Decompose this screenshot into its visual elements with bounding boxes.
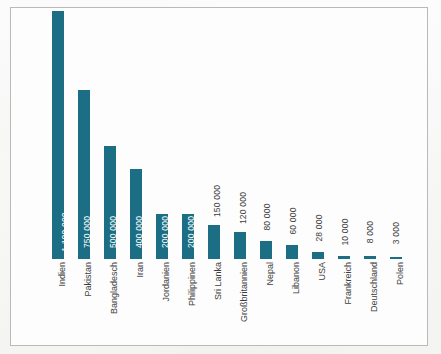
chart-screenshot: 1 100 000Indien750 000Pakistan500 000Ban… [0,0,441,354]
bar-group[interactable]: 28 000USA [305,0,331,354]
bar-category-label: Libanon [279,262,305,342]
bar-rect[interactable] [390,257,402,259]
bar-group[interactable]: 3 000Polen [383,0,409,354]
bar-rect[interactable] [208,225,220,259]
bar-category-label: Polen [383,262,409,342]
bar-value-label: 3 000 [383,210,409,256]
bar-rect[interactable] [234,232,246,259]
bar-group[interactable]: 150 000Sri Lanka [201,0,227,354]
bar-group[interactable]: 1 100 000Indien [45,0,71,354]
bar-group[interactable]: 750 000Pakistan [71,0,97,354]
bar-group[interactable]: 8 000Deutschland [357,0,383,354]
bar-category-label: Bangladesch [97,262,123,342]
bar-group[interactable]: 60 000Libanon [279,0,305,354]
bar-group[interactable]: 500 000Bangladesch [97,0,123,354]
bar-rect[interactable] [260,241,272,259]
bar-category-label: Philippinen [175,262,201,342]
bar-rect[interactable] [338,256,350,259]
bar-rect[interactable] [364,256,376,259]
bar-chart-plot-area: 1 100 000Indien750 000Pakistan500 000Ban… [0,0,441,354]
bar-group[interactable]: 10 000Frankreich [331,0,357,354]
bar-category-label: Indien [45,262,71,342]
bar-group[interactable]: 200 000Philippinen [175,0,201,354]
bar-group[interactable]: 120 000Großbritannien [227,0,253,354]
bar-rect[interactable] [312,252,324,259]
bar-category-label: Deutschland [357,262,383,342]
bar-category-label: Frankreich [331,262,357,342]
bar-group[interactable]: 200 000Jordanien [149,0,175,354]
bar-category-label: Pakistan [71,262,97,342]
bar-category-label: USA [305,262,331,342]
bar-category-label: Großbritannien [227,262,253,342]
bar-category-label: Jordanien [149,262,175,342]
bar-group[interactable]: 400 000Iran [123,0,149,354]
bar-rect[interactable] [286,245,298,259]
bar-group[interactable]: 80 000Nepal [253,0,279,354]
bar-category-label: Iran [123,262,149,342]
bar-category-label: Sri Lanka [201,262,227,342]
bar-category-label: Nepal [253,262,279,342]
